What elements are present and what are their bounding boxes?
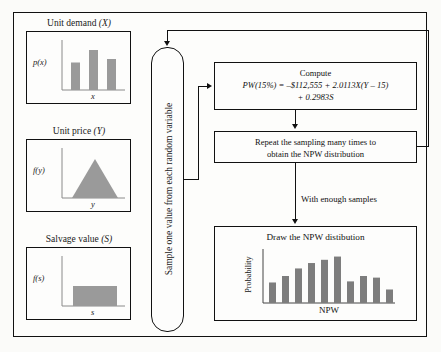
unit-demand-chart [27,32,132,105]
npw-arrowhead-icon [292,219,298,224]
unit-price-variable: (Y) [94,126,106,136]
repeat-arrowhead-icon [292,124,298,129]
salvage-value-box: f(s) s [26,247,131,320]
salvage-value-y-axis-label: f(s) [33,273,44,283]
salvage-value-variable: (S) [101,234,112,244]
diagram-root: Unit demand (X) p(x) x Unit price (Y) f(… [0,0,441,352]
salvage-value-x-axis-label: s [91,307,94,317]
salvage-value-caption: Salvage value (S) [24,234,134,244]
unit-demand-caption: Unit demand (X) [24,18,134,28]
unit-demand-x-axis-label: x [91,91,95,101]
unit-price-x-axis-label: y [91,199,95,209]
sampler-label: Sample one value from each random variab… [164,57,174,322]
unit-demand-variable: (X) [99,18,111,28]
unit-price-caption: Unit price (Y) [24,126,134,136]
unit-demand-box: p(x) x [26,31,131,104]
sampler-to-compute-base [184,179,199,180]
compute-equation-line2: + 0.2983S [215,92,416,104]
npw-y-axis-label: Probability [244,244,253,306]
salvage-value-chart [27,248,132,321]
salvage-value-label: Salvage value [46,234,99,244]
npw-distribution-box: Draw the NPW distibution Probability NPW [214,226,417,321]
enough-samples-note: With enough samples [301,194,377,204]
compute-to-repeat-line [295,110,296,125]
unit-price-y-axis-label: f(y) [33,165,45,175]
unit-demand-label: Unit demand [47,18,96,28]
compute-equation-line1: PW(15%) = –$112,555 + 2.0113X(Y – 15) [215,80,416,92]
repeat-box: Repeat the sampling many times to obtain… [214,131,417,163]
feedback-arrowhead-icon [164,41,170,46]
unit-price-chart [27,140,132,213]
repeat-line1: Repeat the sampling many times to [215,137,416,149]
repeat-line2: obtain the NPW distribution [215,149,416,161]
npw-x-axis-label: NPW [299,305,359,315]
unit-price-box: f(y) y [26,139,131,212]
feedback-arrow-horizontal-top [167,30,429,31]
repeat-to-npw-line [295,163,296,220]
compute-heading: Compute [215,68,416,80]
compute-arrowhead-icon [207,83,212,89]
compute-box: Compute PW(15%) = –$112,555 + 2.0113X(Y … [214,62,417,110]
sampler-capsule: Sample one value from each random variab… [151,47,184,332]
unit-demand-y-axis-label: p(x) [33,57,47,67]
feedback-arrow-vertical-right [428,30,429,147]
unit-price-label: Unit price [53,126,91,136]
sampler-to-compute-vertical [198,86,199,180]
